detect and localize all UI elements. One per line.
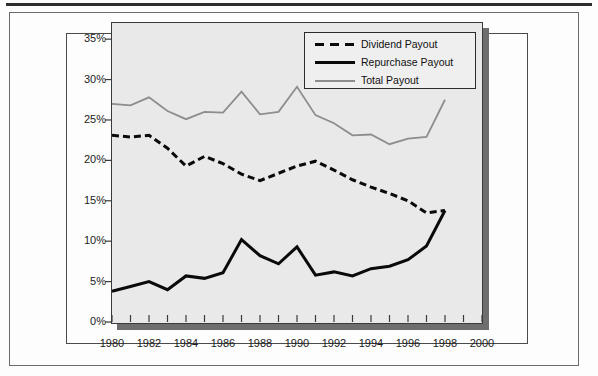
legend-label-dividend-payout: Dividend Payout [361,37,437,51]
legend-label-repurchase-payout: Repurchase Payout [361,55,453,69]
legend-entry-dividend-payout: Dividend Payout [311,36,473,53]
dashed-line-swatch-icon [315,43,355,46]
data-series-group [112,87,445,291]
legend-label-total-payout: Total Payout [361,73,419,87]
series-line-total-payout [112,87,445,144]
legend-entry-total-payout: Total Payout [311,72,473,89]
series-line-dividend-payout [112,135,445,213]
chart-legend: Dividend Payout Repurchase Payout Total … [304,32,476,89]
gray-line-swatch-icon [315,80,355,82]
legend-entry-repurchase-payout: Repurchase Payout [311,54,473,71]
figure-page: 0%5%10%15%20%25%30%35% 19801982198419861… [0,0,598,376]
solid-line-swatch-icon [315,61,355,64]
chart-canvas [0,0,598,376]
series-line-repurchase-payout [112,210,445,291]
